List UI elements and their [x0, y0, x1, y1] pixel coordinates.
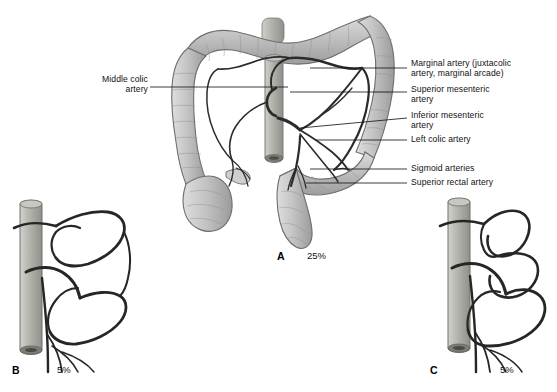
panel-letter-c: C [430, 364, 438, 376]
label-sigmoid-arteries: Sigmoid arteries [411, 163, 474, 173]
panel-percent-a: 25% [307, 250, 326, 261]
panel-c-upper-loop-1 [484, 211, 529, 257]
label-superior-rectal-artery: Superior rectal artery [411, 177, 493, 187]
label-inferior-mesenteric-artery: Inferior mesenteric artery [411, 110, 484, 131]
panel-b-illustration [14, 200, 130, 372]
panel-letter-b: B [12, 364, 20, 376]
panel-percent-b: 5% [57, 364, 71, 375]
anatomy-figure: Middle colic artery Marginal artery (jux… [0, 0, 557, 392]
label-middle-colic-artery: Middle colic artery [78, 74, 148, 95]
ascending-colon [172, 48, 206, 184]
panel-b-mid-arcade [52, 226, 81, 258]
panel-b-upper-arcade [56, 212, 124, 266]
panel-c-branch-a [475, 332, 490, 372]
panel-letter-a: A [277, 250, 285, 262]
panel-b-lower-loop-inner [48, 288, 78, 332]
label-marginal-artery: Marginal artery (juxtacolic artery, marg… [411, 58, 511, 79]
label-superior-mesenteric-artery: Superior mesenteric artery [411, 84, 490, 105]
right-colic-arcade [207, 69, 232, 160]
ileocolic-artery-vessel [230, 102, 267, 160]
panel-b-descending-branch [42, 278, 48, 372]
label-left-colic-artery: Left colic artery [411, 134, 471, 144]
panel-a-illustration [172, 16, 394, 248]
panel-percent-c: 5% [500, 364, 514, 375]
panel-c-illustration [440, 198, 545, 372]
cecum [183, 176, 232, 231]
left-colic-artery-vessel [300, 68, 362, 130]
panel-b-lower-arcade [50, 292, 126, 344]
panel-c-descending-branch [470, 276, 476, 372]
